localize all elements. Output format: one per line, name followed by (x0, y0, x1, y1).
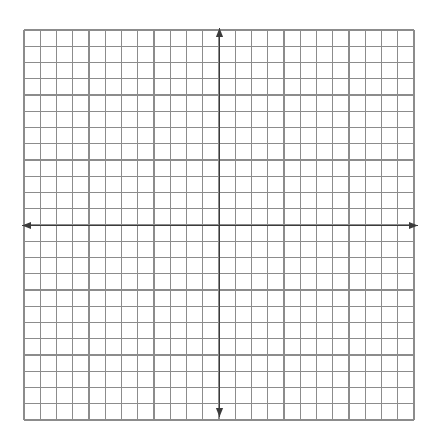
coordinate-grid-graph (0, 0, 433, 437)
